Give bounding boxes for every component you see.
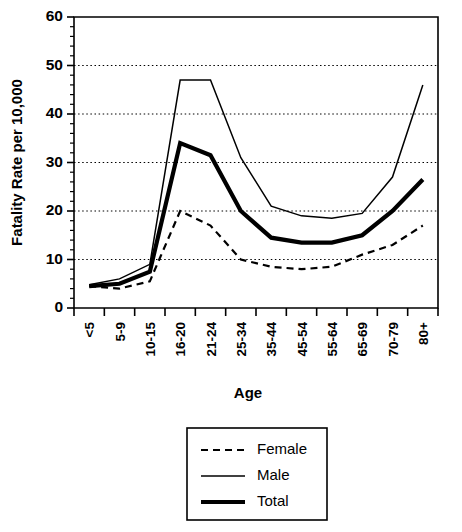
fatality-rate-chart: 0102030405060 <55-910-1516-2021-2425-343…	[0, 0, 462, 532]
x-tick-label-0: <5	[82, 322, 97, 338]
y-tick-label-10: 10	[46, 250, 63, 267]
x-tick-label-6: 35-44	[264, 322, 279, 357]
x-axis-title: Age	[234, 384, 262, 401]
x-tick-label-1: 5-9	[113, 322, 128, 342]
chart-svg: 0102030405060 <55-910-1516-2021-2425-343…	[0, 0, 462, 532]
x-tick-label-8: 55-64	[325, 322, 340, 357]
y-tick-label-0: 0	[54, 298, 63, 315]
legend-label-female: Female	[257, 440, 307, 457]
y-tick-label-60: 60	[46, 7, 63, 24]
y-tick-label-40: 40	[46, 104, 63, 121]
x-tick-label-7: 45-54	[295, 322, 310, 357]
x-tick-label-5: 25-34	[234, 322, 249, 357]
x-tick-label-9: 65-69	[355, 322, 370, 357]
x-tick-label-3: 16-20	[173, 322, 188, 357]
x-tick-label-4: 21-24	[204, 322, 219, 357]
chart-legend: FemaleMaleTotal	[187, 428, 327, 520]
y-axis-title: Fatality Rate per 10,000	[8, 79, 25, 246]
legend-label-male: Male	[257, 466, 290, 483]
y-tick-label-20: 20	[46, 201, 63, 218]
legend-label-total: Total	[257, 492, 289, 509]
x-tick-label-2: 10-15	[143, 322, 158, 357]
y-tick-label-30: 30	[46, 153, 63, 170]
x-tick-label-11: 80+	[416, 322, 431, 345]
x-tick-label-10: 70-79	[386, 322, 401, 357]
y-tick-label-50: 50	[46, 56, 63, 73]
